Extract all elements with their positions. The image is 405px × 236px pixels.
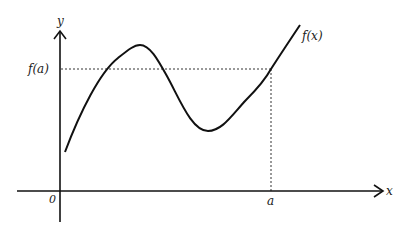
function-graph: y x 0 f(x) a f(a) bbox=[0, 0, 405, 236]
x-axis-label: x bbox=[386, 184, 393, 198]
point-y-label: f(a) bbox=[27, 62, 49, 76]
point-x-label: a bbox=[267, 194, 274, 208]
curve-label: f(x) bbox=[301, 29, 323, 43]
origin-label: 0 bbox=[49, 193, 56, 206]
function-curve bbox=[65, 25, 300, 152]
y-axis-label: y bbox=[56, 14, 64, 28]
